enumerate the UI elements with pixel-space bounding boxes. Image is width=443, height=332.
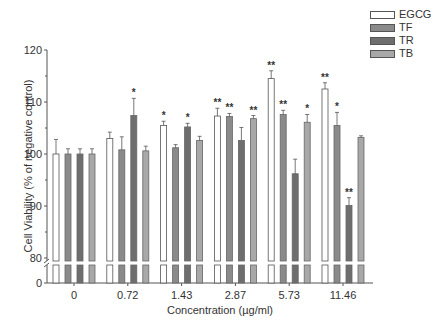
bar-tf [65, 154, 71, 261]
bar-tb [89, 154, 95, 261]
x-axis-label: Concentration (µg/ml) [140, 304, 300, 316]
x-tick-label: 1.43 [171, 289, 192, 301]
bar-tr [292, 265, 298, 283]
significance-mark: ** [226, 102, 234, 113]
y-axis-label: Cell Viability (% of negative control) [22, 66, 34, 266]
bar-egcg [161, 125, 167, 261]
y-tick-label: 0 [36, 277, 42, 289]
bar-tr [238, 140, 244, 261]
significance-mark: ** [250, 105, 258, 116]
significance-mark: * [162, 110, 166, 121]
bar-tb [250, 119, 256, 261]
legend: EGCG TF TR TB [370, 8, 431, 60]
bar-tf [173, 265, 179, 283]
significance-mark: ** [214, 97, 222, 108]
bar-tr [131, 116, 137, 261]
x-tick-label: 0.72 [117, 289, 138, 301]
significance-mark: * [186, 112, 190, 123]
bar-egcg [322, 265, 328, 283]
bar-tf [334, 265, 340, 283]
significance-mark: * [335, 101, 339, 112]
y-tick-label: 120 [24, 44, 42, 56]
bar-tr [238, 265, 244, 283]
x-tick-label: 2.87 [225, 289, 246, 301]
legend-swatch [370, 24, 395, 32]
legend-item-tr: TR [370, 34, 431, 47]
bar-tr [292, 174, 298, 261]
legend-item-tf: TF [370, 21, 431, 34]
bar-tb [89, 265, 95, 283]
bar-tf [65, 265, 71, 283]
bar-egcg [161, 265, 167, 283]
legend-label: TF [399, 21, 412, 34]
bar-egcg [322, 89, 328, 261]
bar-tb [197, 140, 203, 261]
x-tick-label: 0 [71, 289, 77, 301]
bar-tf [280, 114, 286, 261]
legend-label: TR [399, 34, 414, 47]
bar-tr [77, 265, 83, 283]
bar-tb [143, 265, 149, 283]
bar-tb [304, 122, 310, 261]
significance-mark: ** [267, 60, 275, 71]
bar-egcg [107, 265, 113, 283]
bar-tb [304, 265, 310, 283]
bar-tr [131, 265, 137, 283]
bar-egcg [107, 138, 113, 261]
bar-egcg [268, 79, 274, 261]
bar-egcg [53, 154, 59, 261]
bar-tf [119, 265, 125, 283]
bar-tb [358, 265, 364, 283]
bar-tf [173, 148, 179, 261]
bar-tf [226, 117, 232, 261]
bar-tr [346, 205, 352, 261]
legend-item-tb: TB [370, 47, 431, 60]
bar-tf [334, 125, 340, 261]
bar-tr [77, 154, 83, 261]
bar-tb [250, 265, 256, 283]
significance-mark: ** [345, 187, 353, 198]
bar-tf [280, 265, 286, 283]
significance-mark: * [305, 103, 309, 114]
bar-egcg [53, 265, 59, 283]
bar-tr [185, 265, 191, 283]
bar-tf [119, 150, 125, 261]
legend-swatch [370, 50, 395, 58]
legend-swatch [370, 11, 395, 19]
bar-tr [185, 127, 191, 261]
legend-swatch [370, 37, 395, 45]
significance-mark: * [132, 87, 136, 98]
legend-item-egcg: EGCG [370, 8, 431, 21]
x-tick-label: 11.46 [330, 289, 357, 301]
bar-tb [197, 265, 203, 283]
bar-tf [226, 265, 232, 283]
bar-egcg [214, 116, 220, 261]
significance-mark: ** [279, 99, 287, 110]
x-tick-label: 5.73 [278, 289, 299, 301]
bar-egcg [268, 265, 274, 283]
legend-label: TB [399, 47, 413, 60]
bar-tb [143, 151, 149, 261]
legend-label: EGCG [399, 8, 431, 21]
bar-tr [346, 265, 352, 283]
bar-egcg [214, 265, 220, 283]
bar-tb [358, 137, 364, 261]
significance-mark: ** [321, 72, 329, 83]
